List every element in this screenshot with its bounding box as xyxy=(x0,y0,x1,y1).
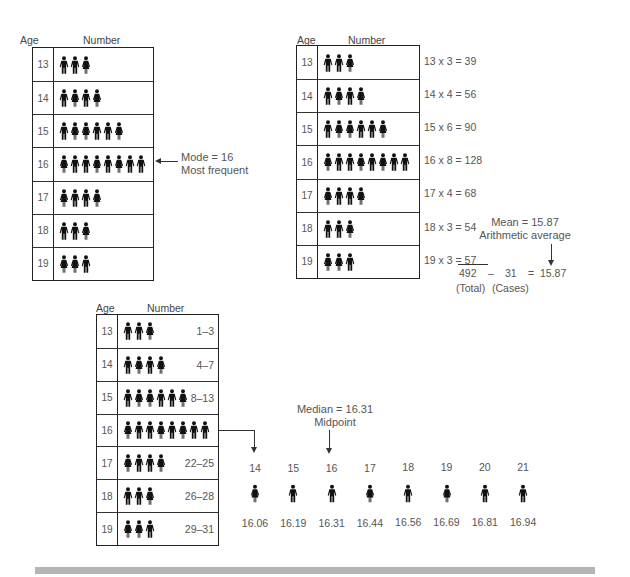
age-cell: 19 xyxy=(297,246,318,278)
sequence-figure xyxy=(432,484,462,503)
mode-label: Mode = 16 Most frequent xyxy=(181,151,248,177)
age-cell: 18 xyxy=(297,213,318,245)
t3-age-header: Age xyxy=(96,302,115,314)
age-cell: 19 xyxy=(33,248,54,280)
age-cell: 15 xyxy=(297,113,318,145)
figure-group xyxy=(322,146,410,178)
male-figure-icon xyxy=(479,484,491,503)
rank-range: 26–28 xyxy=(185,480,214,512)
table-row: 16 xyxy=(297,145,419,178)
sequence-value: 16.69 xyxy=(429,516,465,528)
table-row: 16 xyxy=(33,147,153,180)
female-figure-icon xyxy=(155,454,167,472)
sequence-value: 16.44 xyxy=(352,517,388,529)
rank-range: 22–25 xyxy=(185,447,214,479)
age-cell: 17 xyxy=(297,180,318,212)
sequence-position: 14 xyxy=(240,462,270,474)
figure-group xyxy=(322,46,355,79)
table-row: 18 xyxy=(297,212,419,245)
sequence-figure xyxy=(355,484,385,503)
sum-underline xyxy=(458,264,488,265)
mode-table: 13141516171819 xyxy=(32,47,154,281)
male-figure-icon xyxy=(135,155,147,173)
female-figure-icon xyxy=(344,220,356,238)
total-label: (Total) xyxy=(456,282,485,294)
female-figure-icon xyxy=(91,89,103,107)
age-cell: 18 xyxy=(97,480,118,512)
mean-label-line1: Mean = 15.87 xyxy=(460,216,590,229)
table-row: 158–13 xyxy=(97,381,218,414)
age-cell: 14 xyxy=(33,82,54,114)
age-cell: 17 xyxy=(33,182,54,214)
sequence-value: 16.56 xyxy=(390,516,426,528)
table-row: 17 xyxy=(33,181,153,214)
cases-label: (Cases) xyxy=(492,282,529,294)
female-figure-icon xyxy=(155,356,167,374)
median-label-line1: Median = 16.31 xyxy=(290,403,380,416)
female-figure-icon xyxy=(91,189,103,207)
product-calc: 15 x 6 = 90 xyxy=(424,121,476,133)
male-figure-icon xyxy=(402,484,414,503)
median-arrow-line xyxy=(329,430,330,450)
sequence-position: 21 xyxy=(508,461,538,473)
figure-group xyxy=(322,113,388,145)
female-figure-icon xyxy=(80,56,92,74)
female-figure-icon xyxy=(249,484,261,503)
table-row: 1826–28 xyxy=(97,479,218,512)
figure-group xyxy=(58,82,102,114)
table-row: 15 xyxy=(297,112,419,145)
mean-label: Mean = 15.87 Arithmetic average xyxy=(460,216,590,242)
age-cell: 13 xyxy=(33,48,54,81)
sequence-figure xyxy=(508,484,538,503)
table-row: 17 xyxy=(297,179,419,212)
mean-arrow-head xyxy=(548,260,554,266)
table-row: 1929–31 xyxy=(97,512,218,545)
mean-label-line2: Arithmetic average xyxy=(460,229,590,242)
male-figure-icon xyxy=(399,153,411,171)
age-cell: 15 xyxy=(33,115,54,147)
sequence-value: 16.19 xyxy=(275,517,311,529)
t3-number-header: Number xyxy=(147,302,184,314)
mode-label-line2: Most frequent xyxy=(181,164,248,177)
female-figure-icon xyxy=(144,487,156,505)
female-figure-icon xyxy=(355,187,367,205)
age-cell: 13 xyxy=(97,315,118,348)
median-table: 131–3144–7158–13161722–251826–281929–31 xyxy=(96,314,219,546)
sequence-position: 20 xyxy=(470,461,500,473)
sequence-position: 19 xyxy=(432,461,462,473)
figure-group xyxy=(122,382,188,414)
male-figure-icon xyxy=(344,253,356,271)
table-row: 18 xyxy=(33,214,153,247)
female-figure-icon xyxy=(344,54,356,72)
table-row: 15 xyxy=(33,114,153,147)
mean-cases: 31 xyxy=(505,267,517,279)
figure-group xyxy=(58,115,124,147)
figure-group xyxy=(322,180,366,212)
rank-range: 8–13 xyxy=(191,382,214,414)
male-figure-icon xyxy=(144,520,156,538)
table-row: 1722–25 xyxy=(97,446,218,479)
figure-group xyxy=(122,315,155,348)
female-figure-icon xyxy=(441,484,453,503)
mode-arrow-line xyxy=(160,161,178,162)
figure-group xyxy=(58,248,91,280)
male-figure-icon xyxy=(287,484,299,503)
age-cell: 14 xyxy=(97,349,118,381)
female-figure-icon xyxy=(144,322,156,340)
table-row: 13 xyxy=(33,48,153,81)
figure-group xyxy=(58,215,91,247)
figure-group xyxy=(322,213,355,245)
figure-group xyxy=(322,246,355,278)
sequence-value: 16.06 xyxy=(237,517,273,529)
table-row: 13 xyxy=(297,46,419,79)
figure-group xyxy=(58,48,91,81)
product-calc: 16 x 8 = 128 xyxy=(424,154,482,166)
age-cell: 16 xyxy=(97,415,118,447)
sequence-figure xyxy=(240,484,270,503)
figure-group xyxy=(122,349,166,381)
sequence-figure xyxy=(278,484,308,503)
median-label-line2: Midpoint xyxy=(290,416,380,429)
figure-group xyxy=(58,182,102,214)
table-row: 14 xyxy=(297,79,419,112)
sequence-position: 17 xyxy=(355,462,385,474)
